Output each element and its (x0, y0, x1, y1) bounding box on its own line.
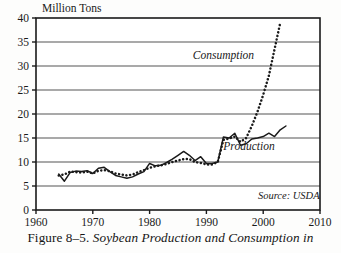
figure-caption: Figure 8–5. Soybean Production and Consu… (0, 230, 341, 246)
x-tick-label-group: 196019701980199020002010 (25, 216, 332, 228)
x-tick-label-2010: 2010 (309, 216, 332, 228)
y-tick-label-35: 35 (18, 36, 30, 48)
y-tick-label-40: 40 (18, 12, 30, 24)
y-tick-label-15: 15 (18, 132, 30, 144)
y-axis-title: Million Tons (42, 2, 102, 14)
y-tick-label-5: 5 (23, 180, 29, 192)
consumption-label: Consumption (193, 49, 255, 62)
y-tick-label-0: 0 (23, 204, 29, 216)
y-tick-label-20: 20 (18, 108, 30, 120)
x-tick-label-1970: 1970 (81, 216, 104, 228)
y-tick-label-30: 30 (18, 60, 30, 72)
chart-area: 0510152025303540 19601970198019902000201… (0, 0, 341, 228)
x-tick-label-1960: 1960 (25, 216, 48, 228)
figure-caption-number: Figure 8–5. (27, 230, 89, 245)
y-tick-label-25: 25 (18, 84, 30, 96)
source-note: Source: USDA (258, 190, 320, 201)
figure-container: 0510152025303540 19601970198019902000201… (0, 0, 341, 253)
y-tick-label-10: 10 (18, 156, 30, 168)
x-tick-label-1990: 1990 (195, 216, 218, 228)
y-tick-label-group: 0510152025303540 (18, 12, 30, 216)
soybean-line-chart: 0510152025303540 19601970198019902000201… (0, 0, 341, 228)
production-label: Production (222, 140, 275, 152)
figure-caption-text: Soybean Production and Consumption in (93, 230, 314, 245)
x-tick-label-2000: 2000 (252, 216, 275, 228)
x-tick-label-1980: 1980 (138, 216, 161, 228)
